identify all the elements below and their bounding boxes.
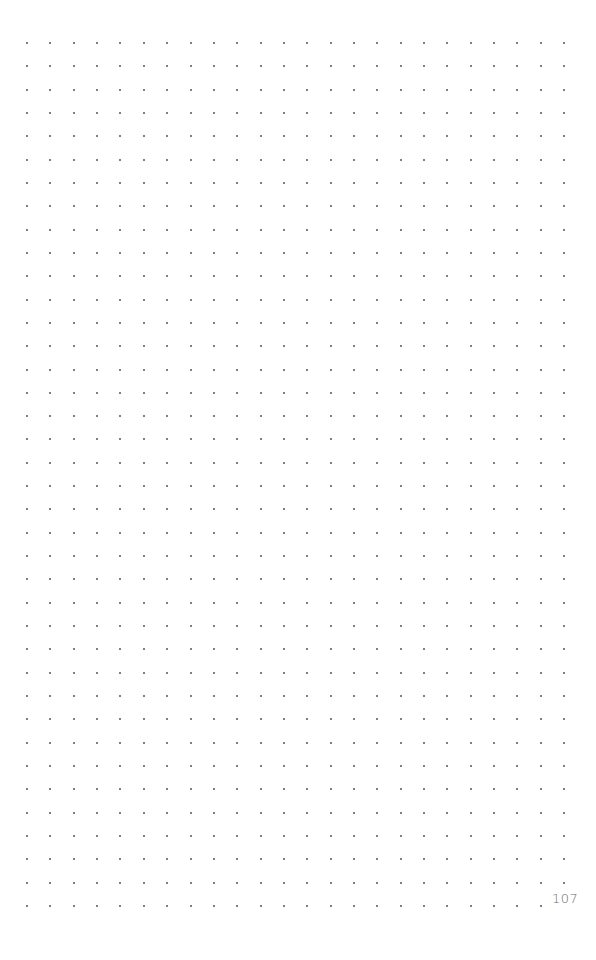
grid-dot: [470, 345, 472, 347]
grid-dot: [306, 812, 308, 814]
grid-dot: [470, 555, 472, 557]
grid-dot: [166, 555, 168, 557]
grid-dot: [119, 182, 121, 184]
grid-dot: [49, 89, 51, 91]
grid-dot: [400, 65, 402, 67]
grid-dot: [143, 182, 145, 184]
grid-dot: [470, 648, 472, 650]
grid-dot: [330, 275, 332, 277]
grid-dot: [493, 812, 495, 814]
grid-dot: [330, 672, 332, 674]
grid-dot: [283, 182, 285, 184]
grid-dot: [306, 835, 308, 837]
grid-dot: [563, 555, 565, 557]
grid-dot: [516, 135, 518, 137]
grid-dot: [213, 858, 215, 860]
grid-dot: [143, 415, 145, 417]
grid-dot: [73, 718, 75, 720]
grid-dot: [470, 135, 472, 137]
grid-dot: [166, 858, 168, 860]
grid-dot: [563, 462, 565, 464]
grid-dot: [190, 65, 192, 67]
grid-dot: [353, 742, 355, 744]
grid-dot: [190, 415, 192, 417]
grid-dot: [213, 812, 215, 814]
grid-dot: [119, 112, 121, 114]
grid-dot: [423, 508, 425, 510]
grid-dot: [330, 695, 332, 697]
grid-dot: [353, 65, 355, 67]
grid-dot: [563, 485, 565, 487]
grid-dot: [236, 322, 238, 324]
grid-dot: [166, 415, 168, 417]
grid-dot: [236, 42, 238, 44]
grid-dot: [353, 112, 355, 114]
grid-dot: [493, 532, 495, 534]
grid-dot: [516, 159, 518, 161]
grid-dot: [470, 182, 472, 184]
grid-dot: [540, 765, 542, 767]
grid-dot: [73, 812, 75, 814]
grid-dot: [143, 882, 145, 884]
grid-dot: [260, 485, 262, 487]
grid-dot: [49, 322, 51, 324]
grid-dot: [516, 602, 518, 604]
grid-dot: [446, 485, 448, 487]
grid-dot: [330, 555, 332, 557]
grid-dot: [26, 438, 28, 440]
grid-dot: [73, 485, 75, 487]
grid-dot: [423, 485, 425, 487]
grid-dot: [446, 89, 448, 91]
grid-dot: [26, 229, 28, 231]
grid-dot: [49, 788, 51, 790]
grid-dot: [306, 42, 308, 44]
grid-dot: [73, 299, 75, 301]
grid-dot: [423, 65, 425, 67]
grid-dot: [446, 812, 448, 814]
grid-dot: [470, 695, 472, 697]
grid-dot: [49, 299, 51, 301]
grid-dot: [376, 485, 378, 487]
grid-dot: [330, 345, 332, 347]
grid-dot: [493, 858, 495, 860]
grid-dot: [96, 205, 98, 207]
grid-dot: [423, 812, 425, 814]
grid-dot: [143, 112, 145, 114]
grid-dot: [166, 532, 168, 534]
grid-dot: [330, 89, 332, 91]
grid-dot: [96, 135, 98, 137]
grid-dot: [119, 462, 121, 464]
grid-dot: [353, 788, 355, 790]
grid-dot: [96, 275, 98, 277]
grid-dot: [166, 648, 168, 650]
grid-dot: [236, 882, 238, 884]
grid-dot: [143, 462, 145, 464]
grid-dot: [73, 89, 75, 91]
grid-dot: [376, 858, 378, 860]
grid-dot: [353, 415, 355, 417]
grid-dot: [353, 322, 355, 324]
grid-dot: [493, 625, 495, 627]
grid-dot: [540, 742, 542, 744]
grid-dot: [330, 462, 332, 464]
grid-dot: [166, 42, 168, 44]
grid-dot: [213, 322, 215, 324]
grid-dot: [26, 672, 28, 674]
grid-dot: [26, 648, 28, 650]
grid-dot: [516, 438, 518, 440]
grid-dot: [49, 602, 51, 604]
grid-dot: [166, 602, 168, 604]
grid-dot: [306, 485, 308, 487]
grid-dot: [376, 42, 378, 44]
grid-dot: [306, 695, 308, 697]
grid-dot: [236, 392, 238, 394]
grid-dot: [493, 485, 495, 487]
grid-dot: [283, 765, 285, 767]
grid-dot: [330, 835, 332, 837]
grid-dot: [73, 672, 75, 674]
grid-dot: [376, 182, 378, 184]
grid-dot: [330, 369, 332, 371]
grid-dot: [236, 65, 238, 67]
grid-dot: [470, 205, 472, 207]
grid-dot: [49, 882, 51, 884]
